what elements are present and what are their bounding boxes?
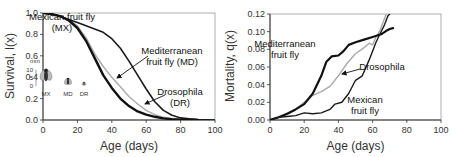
x-axis-label: Age (days) xyxy=(326,139,384,153)
x-tick-label: 20 xyxy=(72,125,82,135)
annotation-label: Mediterranean xyxy=(141,45,202,56)
mortality-plot: 0.000.020.040.060.080.100.12020406080100… xyxy=(223,9,449,153)
x-axis-label: Age (days) xyxy=(100,139,158,153)
inset-species-label: MD xyxy=(63,91,73,97)
x-tick-label: 40 xyxy=(333,125,343,135)
annotation-arrow xyxy=(342,69,360,74)
x-tick-label: 0 xyxy=(267,125,272,135)
fly-body xyxy=(44,71,48,81)
y-tick-label: 0.8 xyxy=(25,29,38,39)
y-tick-label: 0.02 xyxy=(247,97,265,107)
annotation-arrow xyxy=(117,56,148,78)
x-tick-label: 80 xyxy=(402,125,412,135)
fly-head xyxy=(83,82,84,83)
fly-size-inset: mm1050MXMDDR xyxy=(26,58,89,97)
annotation-label: fruit fly (MD) xyxy=(146,56,198,67)
annotation-label: (MX) xyxy=(52,22,73,33)
y-tick-label: 0.12 xyxy=(247,9,265,19)
x-tick-label: 80 xyxy=(176,125,186,135)
annotation-label: fruit fly xyxy=(271,49,299,60)
x-tick-label: 60 xyxy=(141,125,151,135)
inset-species-label: MX xyxy=(42,91,51,97)
x-tick-label: 40 xyxy=(107,125,117,135)
md-fly-icon xyxy=(64,78,72,85)
fly-body xyxy=(67,79,69,85)
y-axis-label: Mortality, q(x) xyxy=(223,30,237,102)
inset-scale-tick: 10 xyxy=(26,67,33,73)
fly-head xyxy=(67,78,69,80)
x-tick-label: 60 xyxy=(368,125,378,135)
inset-species-label: DR xyxy=(80,91,89,97)
y-axis-label: Survival, l(x) xyxy=(3,33,17,99)
figure: 0.00.20.40.60.81.0020406080100Age (days)… xyxy=(0,0,451,157)
inset-scale-tick: 0 xyxy=(30,83,34,89)
annotation-label: Mediterranean xyxy=(254,38,315,49)
fly-body xyxy=(83,83,84,86)
annotation-label: Drosophila xyxy=(359,61,405,72)
y-tick-label: 0.00 xyxy=(247,115,265,125)
y-tick-label: 0.0 xyxy=(25,115,38,125)
x-tick-label: 20 xyxy=(299,125,309,135)
x-tick-label: 100 xyxy=(433,125,448,135)
y-tick-label: 0.2 xyxy=(25,94,38,104)
x-tick-label: 100 xyxy=(207,125,222,135)
annotation-label: (DR) xyxy=(170,97,190,108)
annotation-label: Mexican xyxy=(347,94,382,105)
x-tick-label: 0 xyxy=(40,125,45,135)
y-tick-label: 0.06 xyxy=(247,62,265,72)
mx-fly-icon xyxy=(39,69,54,82)
inset-unit-label: mm xyxy=(30,58,40,64)
annotation-label: fruit fly xyxy=(351,105,379,116)
fly-head xyxy=(44,69,48,73)
dr-fly-icon xyxy=(82,82,86,86)
survival-chart: 0.00.20.40.60.81.0020406080100Age (days)… xyxy=(0,0,451,157)
y-tick-label: 0.04 xyxy=(247,80,265,90)
annotation-label: Mexican fruit fly xyxy=(29,11,95,22)
y-tick-label: 0.10 xyxy=(247,27,265,37)
